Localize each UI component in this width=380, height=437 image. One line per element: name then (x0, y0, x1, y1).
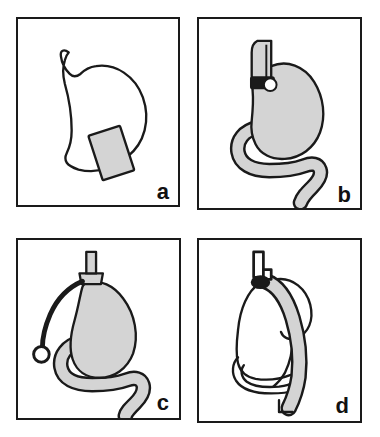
esophagus-stub (86, 252, 96, 273)
stomach-body-filled (71, 282, 136, 378)
esophagus-stub (254, 252, 264, 277)
subcutaneous-access-port (34, 347, 50, 363)
panel-label-d: d (336, 395, 349, 417)
staple-clamp (252, 276, 270, 288)
panel-a-illustration (18, 19, 178, 205)
device-white-port (264, 78, 277, 91)
figure-root: a b (0, 0, 380, 437)
panel-label-c: c (157, 392, 169, 414)
panel-grid: a b (0, 0, 380, 437)
panel-a: a (16, 17, 180, 207)
panel-b: b (197, 17, 362, 210)
panel-label-a: a (157, 181, 169, 203)
panel-label-b: b (338, 184, 351, 206)
panel-c: c (16, 238, 181, 420)
panel-d: d (197, 238, 362, 423)
panel-c-illustration (18, 240, 179, 418)
panel-b-illustration (199, 19, 360, 208)
